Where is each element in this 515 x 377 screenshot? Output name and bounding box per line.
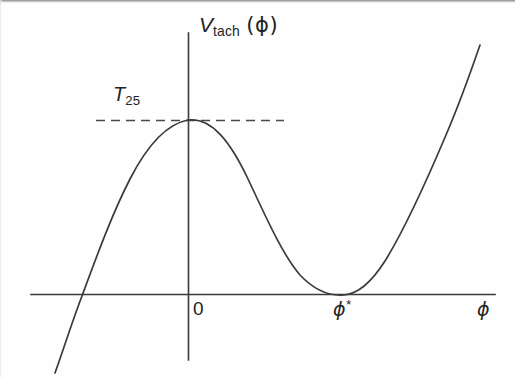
figure-canvas: Vtach (ϕ) T25 0 ϕ* ϕ (0, 0, 515, 377)
origin-label: 0 (193, 299, 204, 318)
origin-label-text: 0 (193, 298, 204, 319)
phi-star-symbol: ϕ (333, 298, 346, 320)
y-axis-label-symbol: V (199, 13, 213, 36)
x-axis-label-symbol: ϕ (477, 298, 490, 320)
phi-star-superscript: * (346, 297, 351, 312)
potential-plot (0, 0, 515, 377)
y-axis-label: Vtach (ϕ) (199, 14, 278, 36)
t25-level-label: T25 (113, 84, 140, 104)
y-axis-label-argument: (ϕ) (246, 13, 278, 37)
t25-subscript: 25 (125, 93, 140, 108)
t25-symbol: T (113, 83, 125, 105)
y-axis-label-subscript: tach (213, 23, 240, 39)
phi-star-label: ϕ* (333, 300, 351, 319)
x-axis-label: ϕ (477, 300, 490, 319)
